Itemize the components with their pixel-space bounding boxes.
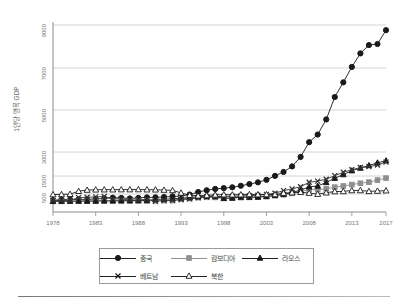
data-point-marker [384,176,389,181]
y-axis-title: 1인당 명목 GDP [11,79,21,139]
data-point-marker [383,188,389,193]
data-point-marker [367,180,372,185]
data-point-marker [264,177,269,182]
legend-item-북한[interactable]: 북한 [171,271,242,281]
legend-marker-icon [171,271,207,281]
x-tick-label: 2008 [292,220,326,226]
y-tick-label: 3000 [41,151,47,181]
x-tick-label: 1998 [207,220,241,226]
y-tick-label: 7000 [41,67,47,97]
data-point-marker [186,273,192,278]
data-point-marker [366,42,371,47]
data-point-marker [115,255,120,260]
y-tick-label: 9000 [41,24,47,54]
legend-label: 베트남 [140,271,158,281]
chart-figure: 1인당 명목 GDP 50015003000500070009000 19781… [0,0,409,308]
x-tick-label: 1993 [164,220,198,226]
data-point-marker [281,169,286,174]
data-point-marker [298,154,303,159]
data-point-marker [315,132,320,137]
y-tick-label: 5000 [41,109,47,139]
data-point-marker [230,185,235,190]
data-point-marker [257,255,263,260]
legend-row: 베트남북한 [100,267,313,285]
data-point-marker [289,164,294,169]
x-tick-marks [53,212,386,216]
chart-legend: 중국캄보디아라오스베트남북한 [99,248,314,284]
axis-lines [53,22,386,212]
legend-marker-icon [100,253,136,263]
x-tick-label: 1983 [79,220,113,226]
data-point-marker [213,186,218,191]
data-point-marker [238,183,243,188]
data-point-marker [307,140,312,145]
legend-item-중국[interactable]: 중국 [100,253,171,263]
x-tick-label: 1978 [36,220,70,226]
x-tick-label: 2013 [335,220,369,226]
data-point-marker [116,274,121,279]
data-point-marker [383,28,388,33]
x-tick-label: 2003 [249,220,283,226]
x-tick-label: 1988 [121,220,155,226]
data-point-marker [247,181,252,186]
data-point-marker [255,180,260,185]
bottom-divider [18,296,390,297]
legend-marker-icon [171,253,207,263]
legend-label: 북한 [211,271,223,281]
legend-item-라오스[interactable]: 라오스 [242,253,313,263]
data-point-marker [324,117,329,122]
data-point-marker [358,181,363,186]
legend-label: 중국 [140,253,152,263]
data-point-marker [375,41,380,46]
legend-marker-icon [100,271,136,281]
data-series-layer [50,28,389,204]
data-point-marker [272,173,277,178]
data-point-marker [221,185,226,190]
data-point-marker [187,256,192,261]
data-point-marker [332,94,337,99]
data-point-marker [358,51,363,56]
data-point-marker [349,64,354,69]
gridlines [53,25,386,194]
data-point-marker [341,80,346,85]
legend-item-캄보디아[interactable]: 캄보디아 [171,253,242,263]
legend-label: 캄보디아 [211,253,235,263]
legend-row: 중국캄보디아라오스 [100,249,313,267]
legend-marker-icon [242,253,278,263]
legend-item-베트남[interactable]: 베트남 [100,271,171,281]
legend-label: 라오스 [282,253,300,263]
x-tick-label: 2017 [369,220,403,226]
data-point-marker [375,178,380,183]
data-point-marker [350,182,355,187]
